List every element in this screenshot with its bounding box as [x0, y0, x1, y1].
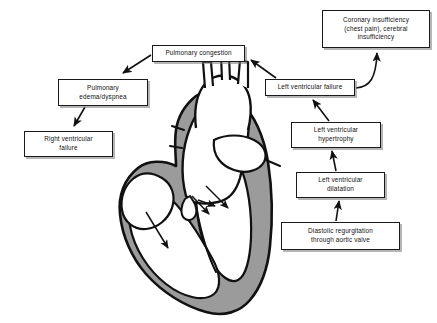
node-pulmonary-edema-dyspnea[interactable]: Pulmonary edema/dyspnea: [58, 79, 148, 106]
node-label: Left ventricular hypertrophy: [295, 126, 377, 144]
node-label: Pulmonary congestion: [156, 49, 241, 58]
brachiocephalic-branch: [203, 62, 213, 88]
edge-pulmcong-to-pulmedema: [123, 55, 151, 73]
node-left-ventricular-dilatation[interactable]: Left ventricular dilatation: [296, 172, 385, 198]
node-coronary-insufficiency[interactable]: Coronary insufficiency (chest pain), cer…: [322, 10, 430, 48]
node-label: Diastolic regurgitation through aortic v…: [285, 227, 396, 245]
node-pulmonary-congestion[interactable]: Pulmonary congestion: [152, 45, 245, 62]
node-right-ventricular-failure[interactable]: Right ventricular failure: [24, 131, 113, 157]
node-label: Left ventricular failure: [269, 83, 351, 92]
edge-lvfail-to-coronary: [356, 53, 377, 88]
node-left-ventricular-hypertrophy[interactable]: Left ventricular hypertrophy: [291, 122, 381, 148]
edge-lvhyper-to-lvfail: [313, 100, 329, 121]
subclavian-branch: [238, 60, 248, 88]
node-label: Left ventricular dilatation: [300, 176, 381, 194]
edge-lvfail-to-pulmcong: [251, 60, 276, 78]
diagram-canvas: Coronary insufficiency (chest pain), cer…: [0, 0, 437, 323]
node-label: Right ventricular failure: [28, 135, 109, 153]
node-label: Coronary insufficiency (chest pain), cer…: [326, 16, 426, 42]
edge-diastolic-to-lvdilat: [336, 201, 339, 221]
node-label: Pulmonary edema/dyspnea: [62, 84, 144, 102]
node-left-ventricular-failure[interactable]: Left ventricular failure: [265, 79, 355, 96]
edge-lvdilat-to-lvhyper: [332, 151, 336, 171]
edge-pulmedema-to-rvfail: [74, 107, 85, 126]
node-diastolic-regurgitation[interactable]: Diastolic regurgitation through aortic v…: [281, 222, 400, 250]
